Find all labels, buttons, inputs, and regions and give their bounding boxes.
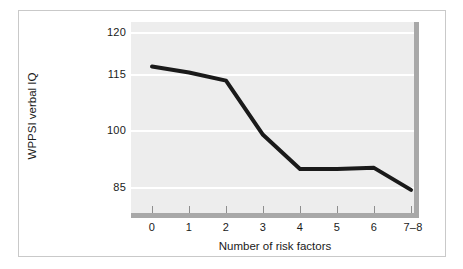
y-tick-label-85: 85	[86, 181, 126, 193]
x-tick-mark	[226, 206, 227, 213]
x-tick-mark	[300, 206, 301, 213]
x-tick-label-7: 7–8	[393, 221, 433, 233]
gridline-100	[131, 130, 417, 132]
x-tick-mark	[411, 206, 412, 213]
x-tick-label-1: 1	[169, 221, 209, 233]
y-tick-label-group: 120 115 100 85	[86, 0, 126, 269]
x-tick-mark	[374, 206, 375, 213]
x-tick-label-0: 0	[132, 221, 172, 233]
x-axis-title: Number of risk factors	[131, 240, 419, 252]
x-tick-label-5: 5	[317, 221, 357, 233]
x-tick-mark	[152, 206, 153, 213]
x-tick-label-2: 2	[206, 221, 246, 233]
plot-area	[131, 22, 417, 213]
x-tick-mark	[263, 206, 264, 213]
y-axis-right-spine	[414, 22, 419, 218]
y-tick-label-115: 115	[86, 68, 126, 80]
y-axis-title: WPPSI verbal IQ	[26, 46, 38, 186]
chart-figure: 0 1 2 3 4 5 6 7–8 120 115 100 85 WPPSI v…	[0, 0, 463, 269]
y-tick-label-120: 120	[86, 26, 126, 38]
gridline-120	[131, 32, 417, 34]
x-tick-label-3: 3	[243, 221, 283, 233]
x-tick-label-6: 6	[354, 221, 394, 233]
y-tick-label-100: 100	[86, 124, 126, 136]
x-axis-line	[131, 213, 419, 218]
x-tick-mark	[337, 206, 338, 213]
gridline-115	[131, 74, 417, 76]
gridline-85	[131, 187, 417, 189]
x-tick-mark	[189, 206, 190, 213]
x-tick-label-4: 4	[280, 221, 320, 233]
